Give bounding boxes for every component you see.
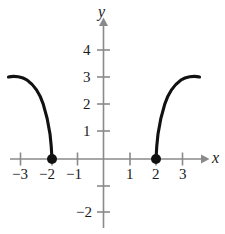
left-endpoint-dot <box>47 154 57 164</box>
x-axis-group <box>10 153 210 166</box>
x-tick-label--3: −3 <box>12 167 28 182</box>
y-tick-label-2: 2 <box>83 97 91 112</box>
y-axis-label: y <box>98 4 105 20</box>
x-axis-arrowhead <box>201 155 210 164</box>
y-tick-label-1: 1 <box>83 124 91 139</box>
coordinate-plane-plot <box>0 0 225 234</box>
x-tick-label-1: 1 <box>126 167 134 182</box>
right-endpoint-dot <box>151 154 161 164</box>
x-tick-label--1: −1 <box>66 167 82 182</box>
graph-figure: −3 −2 −1 1 2 3 4 3 2 1 −2 y x <box>0 0 225 234</box>
x-tick-label-2: 2 <box>152 167 160 182</box>
x-axis-label: x <box>212 150 219 166</box>
y-tick-label--2: −2 <box>76 205 92 220</box>
y-axis-group <box>97 18 110 229</box>
y-tick-label-3: 3 <box>83 70 91 85</box>
y-tick-label-4: 4 <box>83 43 91 58</box>
x-tick-label-3: 3 <box>179 167 187 182</box>
x-tick-label--2: −2 <box>39 167 55 182</box>
left-branch-curve <box>9 76 53 159</box>
right-branch-curve <box>156 76 200 159</box>
